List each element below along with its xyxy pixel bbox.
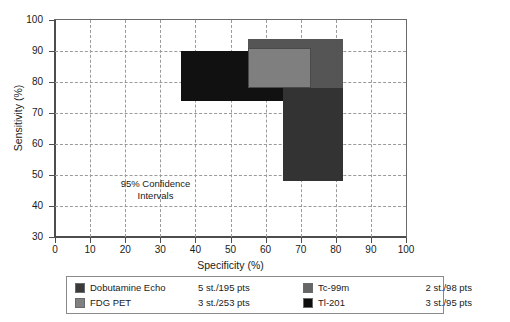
gridline-v-30 [160,20,161,237]
x-tick-80 [336,238,337,243]
x-tick-label-80: 80 [321,244,351,255]
legend-entry-tl-201[interactable]: Tl-201 3 st./95 pts [303,297,472,308]
legend-entry-tc-99m[interactable]: Tc-99m 2 st./98 pts [303,282,472,293]
legend-label-tl-201: Tl-201 [318,297,410,308]
x-tick-10 [90,238,91,243]
y-tick-70 [49,113,55,114]
chart-figure: 0102030405060708090100 10090807060504030… [0,0,510,322]
x-tick-label-10: 10 [75,244,105,255]
legend-swatch-tl-201 [303,298,313,308]
x-tick-label-70: 70 [286,244,316,255]
y-tick-label-100: 100 [10,14,43,25]
x-tick-label-30: 30 [145,244,175,255]
x-tick-label-50: 50 [216,244,246,255]
x-tick-40 [195,238,196,243]
y-tick-label-90: 90 [10,45,43,56]
x-tick-50 [231,238,232,243]
x-tick-label-60: 60 [251,244,281,255]
y-tick-40 [49,206,55,207]
x-tick-70 [301,238,302,243]
x-tick-label-100: 100 [391,244,421,255]
y-axis-title: Sensitivity (%) [12,58,24,178]
y-tick-label-30: 30 [10,231,43,242]
legend-swatch-dobutamine-echo [75,283,85,293]
y-tick-label-40: 40 [10,200,43,211]
y-tick-90 [49,51,55,52]
annotation-line-1: 95% Confidence [93,178,218,190]
ci-box-tl-201 [283,88,343,181]
legend-swatch-tc-99m [303,283,313,293]
gridline-v-10 [90,20,91,237]
x-tick-100 [406,238,407,243]
chart-legend: Dobutamine Echo 5 st./195 pts Tc-99m 2 s… [66,276,444,314]
x-tick-label-40: 40 [180,244,210,255]
legend-label-tc-99m: Tc-99m [318,282,410,293]
legend-label-dobutamine-echo: Dobutamine Echo [90,282,198,293]
legend-stats-tc-99m: 2 st./98 pts [410,282,472,293]
annotation-line-2: Intervals [93,190,218,202]
x-tick-20 [125,238,126,243]
y-tick-100 [49,20,55,21]
ci-box-fdg-pet [248,48,311,88]
legend-swatch-fdg-pet [75,298,85,308]
gridline-h-70 [55,113,406,114]
x-tick-90 [371,238,372,243]
y-tick-50 [49,175,55,176]
x-tick-60 [266,238,267,243]
x-tick-label-0: 0 [40,244,70,255]
confidence-interval-annotation: 95% Confidence Intervals [93,178,218,202]
legend-stats-fdg-pet: 3 st./253 pts [198,297,303,308]
gridline-h-40 [55,206,406,207]
x-axis-title: Specificity (%) [55,259,406,271]
legend-label-fdg-pet: FDG PET [90,297,198,308]
gridline-v-90 [371,20,372,237]
legend-stats-dobutamine-echo: 5 st./195 pts [198,282,303,293]
x-tick-0 [55,238,56,243]
legend-entry-dobutamine-echo[interactable]: Dobutamine Echo 5 st./195 pts [75,282,303,293]
x-tick-label-20: 20 [110,244,140,255]
y-tick-30 [49,237,55,238]
legend-stats-tl-201: 3 st./95 pts [410,297,472,308]
y-tick-80 [49,82,55,83]
legend-entry-fdg-pet[interactable]: FDG PET 3 st./253 pts [75,297,303,308]
gridline-v-20 [125,20,126,237]
legend-row-1: Dobutamine Echo 5 st./195 pts Tc-99m 2 s… [75,280,435,295]
gridline-h-50 [55,175,406,176]
plot-right-border [406,19,407,238]
x-tick-label-90: 90 [356,244,386,255]
x-tick-30 [160,238,161,243]
y-tick-60 [49,144,55,145]
legend-row-2: FDG PET 3 st./253 pts Tl-201 3 st./95 pt… [75,295,435,310]
gridline-h-60 [55,144,406,145]
